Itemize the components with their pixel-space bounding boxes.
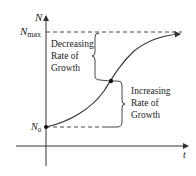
nmax-label: Nmax: [19, 25, 41, 39]
lower-brace: [104, 81, 125, 127]
increasing-rate-label: Increasing Rate of Growth: [131, 86, 173, 120]
n0-label: N0: [30, 121, 42, 134]
initial-point: [44, 125, 48, 129]
logistic-growth-diagram: N t Nmax N0 Decreasing Rate of Growth In…: [0, 0, 196, 176]
decreasing-rate-label: Decreasing Rate of Growth: [51, 39, 96, 73]
y-axis-label: N: [34, 11, 43, 23]
x-axis-label: t: [183, 149, 186, 160]
